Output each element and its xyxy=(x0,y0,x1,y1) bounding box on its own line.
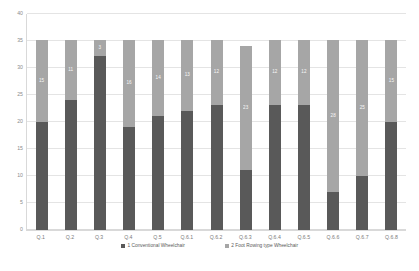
bar-stack[interactable]: 15 xyxy=(385,40,397,230)
bar-column[interactable]: 3 xyxy=(85,14,114,230)
bar-data-label: 3 xyxy=(99,46,102,51)
y-axis-tick-label: 35 xyxy=(17,38,23,43)
bar-segment-series-1[interactable] xyxy=(36,122,48,231)
bar-data-label: 28 xyxy=(330,114,335,119)
bar-segment-series-2[interactable]: 23 xyxy=(240,46,252,171)
bar-data-label: 15 xyxy=(389,79,394,84)
bar-segment-series-1[interactable] xyxy=(181,111,193,230)
y-axis-tick-label: 25 xyxy=(17,92,23,97)
bar-segment-series-1[interactable] xyxy=(211,105,223,230)
x-axis-tick-label: Q.3 xyxy=(84,232,113,240)
x-axis-tick-label: Q.6.2 xyxy=(201,232,230,240)
x-axis-tick-label: Q.2 xyxy=(55,232,84,240)
x-axis-tick-label: Q.6.6 xyxy=(318,232,347,240)
bar-segment-series-1[interactable] xyxy=(356,176,368,230)
x-axis-tick-label: Q.6.4 xyxy=(260,232,289,240)
x-axis-tick-label: Q.6.5 xyxy=(289,232,318,240)
legend-label: 2 Foot Rowing type Wheelchair xyxy=(231,244,298,249)
bar-segment-series-1[interactable] xyxy=(327,192,339,230)
plot-area: 0510152025303540 15113161413122312122825… xyxy=(26,14,406,231)
bar-segment-series-1[interactable] xyxy=(94,56,106,230)
bar-column[interactable]: 14 xyxy=(144,14,173,230)
legend-swatch-icon xyxy=(121,244,125,248)
y-axis-tick-label: 30 xyxy=(17,65,23,70)
bar-column[interactable]: 23 xyxy=(231,14,260,230)
bar-segment-series-2[interactable]: 15 xyxy=(385,40,397,121)
bar-segment-series-2[interactable]: 13 xyxy=(181,40,193,111)
bar-column[interactable]: 16 xyxy=(114,14,143,230)
bar-segment-series-1[interactable] xyxy=(298,105,310,230)
bar-data-label: 11 xyxy=(68,68,73,73)
bar-stack[interactable]: 3 xyxy=(94,40,106,230)
bar-segment-series-2[interactable]: 28 xyxy=(327,40,339,192)
y-axis-tick-label: 5 xyxy=(20,200,23,205)
y-axis-tick-label: 0 xyxy=(20,227,23,232)
y-axis-tick-label: 15 xyxy=(17,146,23,151)
bar-data-label: 16 xyxy=(126,81,131,86)
bar-data-label: 15 xyxy=(39,79,44,84)
bar-column[interactable]: 11 xyxy=(56,14,85,230)
stacked-bar-chart: 0510152025303540 15113161413122312122825… xyxy=(0,0,419,271)
bar-segment-series-1[interactable] xyxy=(123,127,135,230)
bar-column[interactable]: 15 xyxy=(27,14,56,230)
bar-segment-series-2[interactable]: 11 xyxy=(65,40,77,100)
x-axis-tick-label: Q.6.7 xyxy=(348,232,377,240)
x-axis-tick-label: Q.6.8 xyxy=(377,232,406,240)
bar-data-label: 25 xyxy=(360,106,365,111)
legend-item[interactable]: 2 Foot Rowing type Wheelchair xyxy=(225,244,298,249)
bar-segment-series-1[interactable] xyxy=(65,100,77,230)
bar-column[interactable]: 12 xyxy=(289,14,318,230)
bar-data-label: 12 xyxy=(301,70,306,75)
bar-stack[interactable]: 12 xyxy=(269,40,281,230)
bar-column[interactable]: 15 xyxy=(377,14,406,230)
x-axis-tick-label: Q.5 xyxy=(143,232,172,240)
bar-column[interactable]: 12 xyxy=(202,14,231,230)
chart-legend: 1 Conventional Wheelchair2 Foot Rowing t… xyxy=(0,244,419,249)
bar-stack[interactable]: 13 xyxy=(181,40,193,230)
bar-segment-series-1[interactable] xyxy=(385,122,397,231)
bars-layer: 1511316141312231212282515 xyxy=(27,14,406,230)
bar-stack[interactable]: 28 xyxy=(327,40,339,230)
bar-stack[interactable]: 11 xyxy=(65,40,77,230)
legend-label: 1 Conventional Wheelchair xyxy=(128,244,185,249)
bar-column[interactable]: 12 xyxy=(260,14,289,230)
bar-data-label: 12 xyxy=(214,70,219,75)
bar-segment-series-2[interactable]: 16 xyxy=(123,40,135,127)
bar-segment-series-2[interactable]: 3 xyxy=(94,40,106,56)
bar-segment-series-2[interactable]: 12 xyxy=(211,40,223,105)
legend-item[interactable]: 1 Conventional Wheelchair xyxy=(121,244,185,249)
bar-segment-series-2[interactable]: 14 xyxy=(152,40,164,116)
bar-segment-series-1[interactable] xyxy=(269,105,281,230)
x-axis-tick-label: Q.6.3 xyxy=(231,232,260,240)
bar-segment-series-2[interactable]: 25 xyxy=(356,40,368,176)
legend-swatch-icon xyxy=(225,244,229,248)
bar-column[interactable]: 28 xyxy=(319,14,348,230)
bar-stack[interactable]: 12 xyxy=(298,40,310,230)
bar-segment-series-1[interactable] xyxy=(152,116,164,230)
bar-stack[interactable]: 23 xyxy=(240,46,252,230)
y-axis-tick-label: 10 xyxy=(17,173,23,178)
x-axis-tick-label: Q.6.1 xyxy=(172,232,201,240)
bar-stack[interactable]: 25 xyxy=(356,40,368,230)
bar-data-label: 23 xyxy=(243,106,248,111)
bar-column[interactable]: 13 xyxy=(173,14,202,230)
bar-segment-series-2[interactable]: 15 xyxy=(36,40,48,121)
y-axis-tick-label: 40 xyxy=(17,11,23,16)
bar-stack[interactable]: 15 xyxy=(36,40,48,230)
x-axis-tick-label: Q.4 xyxy=(114,232,143,240)
bar-stack[interactable]: 14 xyxy=(152,40,164,230)
bar-data-label: 12 xyxy=(272,70,277,75)
y-axis-tick-label: 20 xyxy=(17,119,23,124)
bar-data-label: 14 xyxy=(156,76,161,81)
bar-segment-series-2[interactable]: 12 xyxy=(269,40,281,105)
bar-column[interactable]: 25 xyxy=(348,14,377,230)
bar-stack[interactable]: 12 xyxy=(211,40,223,230)
bar-segment-series-1[interactable] xyxy=(240,170,252,230)
x-axis-tick-label: Q.1 xyxy=(26,232,55,240)
bar-data-label: 13 xyxy=(185,73,190,78)
bar-stack[interactable]: 16 xyxy=(123,40,135,230)
bar-segment-series-2[interactable]: 12 xyxy=(298,40,310,105)
